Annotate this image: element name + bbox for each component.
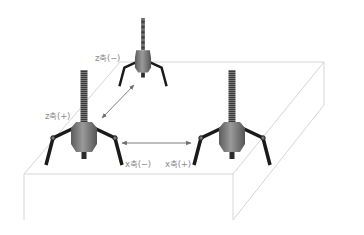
- label-x-minus: x축(−): [125, 157, 151, 169]
- label-x-plus: x축(+): [165, 157, 191, 169]
- robot-top: [119, 18, 166, 86]
- z-axis-arrow: [102, 85, 134, 118]
- label-z-plus: z축(+): [45, 109, 70, 121]
- robot-right: [194, 70, 270, 165]
- table-box: [24, 62, 324, 220]
- label-z-minus: z축(−): [95, 51, 120, 63]
